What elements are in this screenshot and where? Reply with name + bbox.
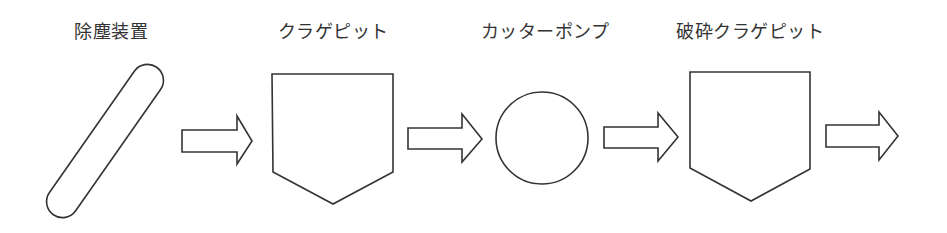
flow-arrow-4: [826, 112, 898, 160]
jellyfish-pit-shape: [272, 74, 393, 204]
crushed-jellyfish-pit-shape: [690, 72, 810, 201]
flow-arrow-2: [408, 114, 482, 162]
diagram-shapes: [0, 0, 947, 233]
dust-removal-device-shape: [40, 58, 169, 224]
cutter-pump-shape: [496, 92, 588, 184]
flow-arrow-3: [604, 113, 678, 161]
process-flow-diagram: 除塵装置 クラゲピット カッターポンプ 破砕クラゲピット: [0, 0, 947, 233]
flow-arrow-1: [182, 116, 252, 164]
